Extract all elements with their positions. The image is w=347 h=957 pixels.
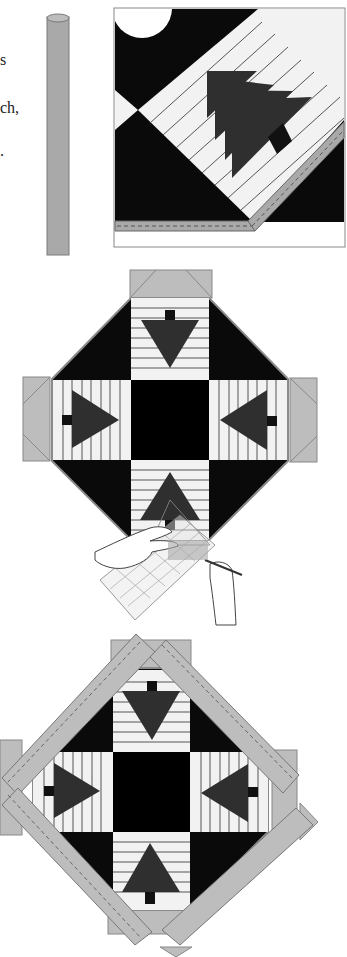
illustration-canvas (0, 0, 347, 957)
corner-block-figure (112, 0, 345, 247)
finished-border-figure (0, 634, 318, 957)
binding-strip-figure (47, 14, 69, 255)
top-tab (130, 270, 212, 298)
left-tab (23, 377, 50, 461)
assembly-trim-figure (23, 270, 317, 625)
